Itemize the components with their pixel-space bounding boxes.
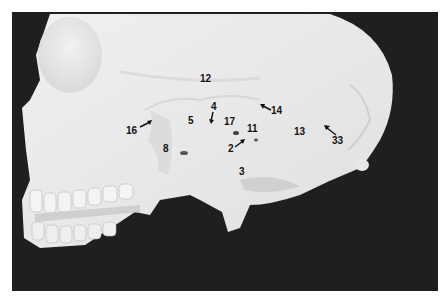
label-8: 8 (163, 144, 169, 154)
label-16: 16 (126, 126, 137, 136)
skull-photograph: 12 16 5 4 17 11 14 13 33 8 2 3 (12, 12, 438, 291)
label-12: 12 (200, 74, 211, 84)
label-2: 2 (228, 144, 234, 154)
arrow-icon-16 (139, 119, 153, 129)
label-33: 33 (332, 136, 343, 146)
label-3: 3 (239, 167, 245, 177)
label-11: 11 (247, 124, 258, 134)
arrow-icon-4 (208, 111, 216, 125)
arrow-icon-2 (234, 138, 246, 148)
skull-illustration (12, 12, 438, 291)
label-13: 13 (294, 127, 305, 137)
label-17: 17 (224, 117, 235, 127)
label-5: 5 (188, 116, 194, 126)
orbit-shape (38, 17, 102, 93)
arrow-icon-14 (260, 104, 272, 112)
label-14: 14 (271, 106, 282, 116)
arrow-icon-33 (324, 125, 338, 137)
